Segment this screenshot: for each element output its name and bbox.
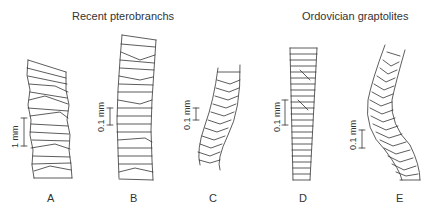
specimen-label-a: A xyxy=(47,192,54,204)
specimen-b-drawing xyxy=(117,35,156,180)
specimen-label-e: E xyxy=(396,192,403,204)
specimen-label-d: D xyxy=(299,192,307,204)
specimen-label-b: B xyxy=(130,192,137,204)
scale-bar-c xyxy=(193,108,199,120)
specimen-d-drawing xyxy=(290,48,317,180)
scale-label-a: 1 mm xyxy=(10,126,20,149)
scale-bar-b xyxy=(107,108,113,125)
scale-label-e: 0.1 mm xyxy=(348,120,358,150)
specimen-label-c: C xyxy=(209,192,217,204)
specimen-c-drawing xyxy=(198,65,240,170)
scale-label-b: 0.1 mm xyxy=(96,102,106,132)
specimen-e-drawing xyxy=(367,45,420,180)
scale-label-d: 0.1 mm xyxy=(272,102,282,132)
scale-bar-a xyxy=(21,118,27,146)
specimen-a-drawing xyxy=(27,60,72,178)
scale-label-c: 0.1 mm xyxy=(182,100,192,130)
scale-bar-e xyxy=(359,130,365,148)
specimen-drawings xyxy=(0,0,429,214)
scale-bar-d xyxy=(282,100,288,125)
